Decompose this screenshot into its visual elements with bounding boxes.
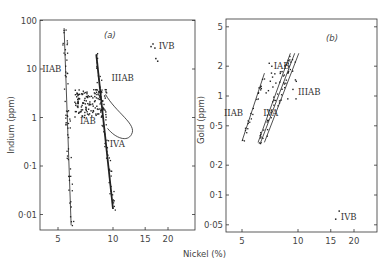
data-point xyxy=(99,99,100,100)
data-point xyxy=(103,131,104,132)
data-point xyxy=(72,225,73,226)
data-point xyxy=(81,109,82,110)
data-point xyxy=(109,182,110,183)
x-tick-label: 5 xyxy=(239,236,244,246)
y-tick-label: 10 xyxy=(26,64,37,74)
x-tick-label: 20 xyxy=(349,236,360,246)
data-point xyxy=(105,91,106,92)
data-point xyxy=(65,29,66,30)
data-point xyxy=(63,32,64,33)
data-point xyxy=(69,118,70,119)
data-point xyxy=(90,110,91,111)
panel-a-label: (a) xyxy=(104,30,116,40)
data-point xyxy=(63,52,64,53)
data-point xyxy=(96,106,97,107)
data-point xyxy=(85,103,86,104)
data-point xyxy=(74,116,75,117)
data-point xyxy=(67,53,68,54)
data-point xyxy=(70,201,71,202)
data-point xyxy=(67,134,68,135)
data-point xyxy=(100,111,101,112)
data-point xyxy=(262,138,263,139)
data-point xyxy=(92,112,93,113)
data-point xyxy=(70,176,71,177)
data-point xyxy=(335,218,337,220)
x-tick-label: 5 xyxy=(55,234,60,244)
data-point xyxy=(99,91,100,92)
data-point xyxy=(284,83,285,84)
y-tick-label: 0·5 xyxy=(209,121,223,131)
data-point xyxy=(65,75,66,76)
data-point xyxy=(247,128,248,129)
data-point xyxy=(248,123,249,124)
data-point xyxy=(287,98,288,99)
data-point xyxy=(242,140,243,141)
data-point xyxy=(98,93,99,94)
data-point xyxy=(110,190,111,191)
panel-b: 51015205210·50·20·10·05 IIABIABIIIABIVAI… xyxy=(196,19,377,246)
data-point xyxy=(285,83,286,84)
data-point xyxy=(288,62,289,63)
data-point xyxy=(86,107,87,108)
panel-b-frame xyxy=(226,19,377,232)
data-point xyxy=(105,111,106,112)
figure: 51015201001010·10·01 IIABIIIABIABIVAIVB … xyxy=(0,0,392,273)
data-point xyxy=(296,81,297,82)
data-point xyxy=(275,82,276,83)
group-label: IIAB xyxy=(42,64,61,74)
data-point xyxy=(283,75,284,76)
data-point xyxy=(104,134,105,135)
data-point xyxy=(97,53,98,54)
data-point xyxy=(72,190,73,191)
data-point xyxy=(264,78,265,79)
data-point xyxy=(85,92,86,93)
data-point xyxy=(268,90,269,91)
group-iiiab: IIIAB xyxy=(96,53,134,211)
data-point xyxy=(96,54,97,55)
data-point xyxy=(110,160,111,161)
y-tick-label: 100 xyxy=(21,16,37,26)
data-point xyxy=(288,72,289,73)
data-point xyxy=(87,96,88,97)
data-point xyxy=(272,101,273,102)
x-tick-label: 15 xyxy=(140,234,151,244)
data-point xyxy=(273,105,274,106)
data-point xyxy=(280,73,281,74)
data-point xyxy=(80,111,81,112)
panel-a: 51015201001010·10·01 IIABIIIABIABIVAIVB … xyxy=(6,16,195,245)
data-point xyxy=(82,102,83,103)
group-label: IAB xyxy=(80,116,96,126)
data-point xyxy=(96,92,97,93)
y-tick-label: 1 xyxy=(218,91,223,101)
data-point xyxy=(66,59,67,60)
group-iva: IVA xyxy=(106,94,133,149)
data-point xyxy=(258,98,259,99)
data-point xyxy=(102,100,103,101)
data-point xyxy=(113,202,114,203)
data-point xyxy=(260,132,261,133)
data-point xyxy=(71,206,72,207)
data-point xyxy=(258,92,259,93)
data-point xyxy=(62,44,63,45)
data-point xyxy=(109,193,110,194)
data-point xyxy=(98,75,99,76)
data-point xyxy=(258,87,259,88)
data-point xyxy=(89,96,90,97)
group-label: IVB xyxy=(341,212,357,222)
data-point xyxy=(260,86,261,87)
x-tick-label: 20 xyxy=(163,234,174,244)
data-point xyxy=(96,97,97,98)
x-axis-label: Nickel (%) xyxy=(183,249,226,259)
group-iiab: IIAB xyxy=(42,28,74,226)
data-point xyxy=(284,87,285,88)
data-point xyxy=(91,96,92,97)
data-point xyxy=(250,113,251,114)
data-point xyxy=(96,89,97,90)
data-point xyxy=(105,116,106,117)
data-point xyxy=(86,100,87,101)
data-point xyxy=(105,119,106,120)
data-point xyxy=(97,68,98,69)
data-point xyxy=(67,115,68,116)
data-point xyxy=(82,109,83,110)
data-point xyxy=(106,158,107,159)
